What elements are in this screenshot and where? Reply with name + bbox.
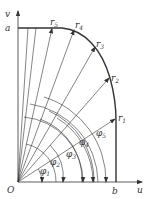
point-a-label: a <box>5 23 10 33</box>
r2-label: r2 <box>111 73 119 84</box>
phi4-label: φ4 <box>79 137 89 148</box>
phi5-label: φ5 <box>96 128 106 139</box>
curve-diagram: v a O b u r1 r2 r3 r4 r5 φ1 φ2 φ3 φ4 φ5 <box>0 0 153 199</box>
r3-label: r3 <box>96 39 104 50</box>
origin-label: O <box>7 185 15 195</box>
angle-arcs <box>24 97 106 182</box>
phi1-label: φ1 <box>40 166 50 177</box>
phi3-label: φ3 <box>66 149 76 160</box>
v-axis-label: v <box>5 9 10 19</box>
u-axis-label: u <box>137 185 143 195</box>
r1-label: r1 <box>118 113 126 124</box>
point-b-label: b <box>112 186 118 196</box>
phi2-label: φ2 <box>50 157 60 168</box>
r4-label: r4 <box>75 20 83 31</box>
r5-label: r5 <box>50 17 58 28</box>
